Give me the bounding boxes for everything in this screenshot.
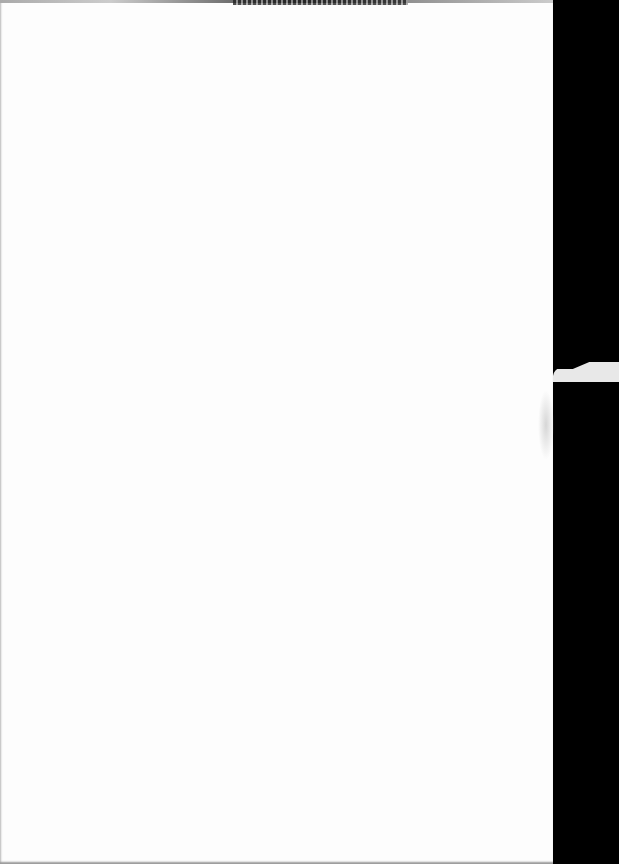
cut-off-header-text — [233, 0, 408, 5]
paper-tab — [553, 362, 619, 382]
scanned-page — [0, 0, 553, 864]
scan-smudge — [538, 390, 554, 460]
